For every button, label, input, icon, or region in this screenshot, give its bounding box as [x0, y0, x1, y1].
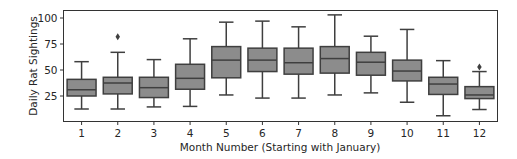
box-month-8 — [320, 15, 349, 95]
box-month-3 — [139, 60, 168, 107]
y-tick-label: 25 — [44, 90, 57, 102]
x-tick-label: 2 — [114, 127, 121, 139]
y-tick-label: 100 — [37, 12, 57, 24]
x-tick-label: 11 — [437, 127, 450, 139]
y-tick-label: 50 — [44, 64, 57, 76]
box-month-11 — [429, 61, 458, 116]
iqr-box — [67, 79, 96, 96]
x-tick-label: 8 — [331, 127, 338, 139]
iqr-box — [212, 47, 241, 78]
iqr-box — [103, 77, 132, 94]
outlier-marker — [477, 63, 482, 70]
iqr-box — [356, 52, 385, 75]
iqr-box — [284, 48, 313, 74]
x-tick-label: 9 — [368, 127, 375, 139]
iqr-box — [176, 64, 205, 89]
box-month-10 — [393, 29, 422, 102]
y-axis-label: Daily Rat Sightings — [27, 16, 39, 116]
plot-area — [67, 15, 494, 116]
iqr-box — [465, 87, 494, 99]
x-tick-label: 12 — [473, 127, 486, 139]
box-month-6 — [248, 21, 277, 98]
box-month-12 — [465, 63, 494, 109]
outlier-marker — [116, 33, 121, 40]
box-month-9 — [356, 36, 385, 93]
x-tick-label: 7 — [295, 127, 302, 139]
box-plot-chart: 255075100 123456789101112 Month Number (… — [0, 0, 517, 159]
x-tick-label: 5 — [223, 127, 230, 139]
box-month-7 — [284, 27, 313, 98]
x-axis: 123456789101112 — [78, 122, 486, 139]
x-tick-label: 4 — [187, 127, 194, 139]
iqr-box — [320, 47, 349, 74]
box-month-4 — [176, 39, 205, 107]
box-month-5 — [212, 22, 241, 95]
box-month-2 — [103, 33, 132, 109]
plot-frame — [64, 11, 498, 122]
x-tick-label: 10 — [400, 127, 413, 139]
box-month-1 — [67, 62, 96, 109]
y-axis: 255075100 — [37, 12, 63, 102]
x-axis-label: Month Number (Starting with January) — [180, 141, 381, 153]
x-tick-label: 1 — [78, 127, 85, 139]
y-tick-label: 75 — [44, 38, 57, 50]
iqr-box — [429, 77, 458, 94]
x-tick-label: 6 — [259, 127, 266, 139]
x-tick-label: 3 — [151, 127, 158, 139]
